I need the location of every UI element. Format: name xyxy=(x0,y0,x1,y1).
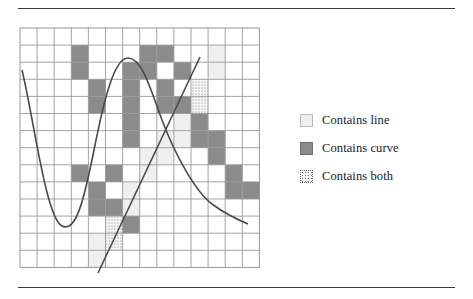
legend-item-line: Contains line xyxy=(300,110,399,131)
grid-cell xyxy=(88,250,105,267)
grid-cell xyxy=(106,233,123,250)
grid-cell xyxy=(123,114,140,131)
grid-cell xyxy=(88,233,105,250)
grid-cell xyxy=(157,45,174,62)
grid-cell xyxy=(191,79,208,96)
grid-cell xyxy=(191,114,208,131)
legend-item-curve: Contains curve xyxy=(300,138,399,159)
grid-cell xyxy=(174,96,191,113)
grid-figure xyxy=(0,0,473,299)
swatch-contains-curve-icon xyxy=(300,142,313,155)
grid-cell xyxy=(157,79,174,96)
grid-cell xyxy=(123,131,140,148)
grid-cell xyxy=(140,148,157,165)
grid-cell xyxy=(123,62,140,79)
grid-cell xyxy=(208,148,225,165)
grid-cell xyxy=(88,79,105,96)
legend: Contains line Contains curve Contains bo… xyxy=(300,110,399,194)
grid-cell xyxy=(242,182,259,199)
grid-cell xyxy=(174,62,191,79)
grid-cell xyxy=(106,165,123,182)
grid-cell xyxy=(71,165,88,182)
grid-cell xyxy=(71,45,88,62)
grid-cell xyxy=(174,114,191,131)
grid-cell xyxy=(191,96,208,113)
grid-cell xyxy=(191,131,208,148)
grid-cell xyxy=(71,62,88,79)
grid-cell xyxy=(157,148,174,165)
swatch-contains-both-icon xyxy=(300,170,313,183)
grid-cell xyxy=(123,79,140,96)
grid-cell xyxy=(123,96,140,113)
legend-label-both: Contains both xyxy=(322,169,393,184)
swatch-contains-line-icon xyxy=(300,114,313,127)
grid-cell xyxy=(225,182,242,199)
grid-cell xyxy=(88,182,105,199)
cell-fills xyxy=(71,45,259,267)
grid-cell xyxy=(174,131,191,148)
legend-label-line: Contains line xyxy=(322,113,390,128)
grid-cell xyxy=(106,199,123,216)
grid-cell xyxy=(140,45,157,62)
legend-label-curve: Contains curve xyxy=(322,141,399,156)
grid-cell xyxy=(157,131,174,148)
grid-cell xyxy=(208,45,225,62)
grid-cell xyxy=(123,216,140,233)
grid-cell xyxy=(225,165,242,182)
legend-item-both: Contains both xyxy=(300,166,399,187)
grid-cell xyxy=(208,131,225,148)
grid-cell xyxy=(208,62,225,79)
grid-cell xyxy=(88,199,105,216)
